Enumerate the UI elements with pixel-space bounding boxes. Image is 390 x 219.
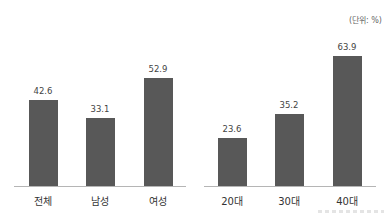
bar-value: 42.6 bbox=[23, 86, 63, 96]
bar-30s bbox=[275, 114, 304, 186]
unit-label: (단위: %) bbox=[349, 14, 382, 25]
bar-value: 63.9 bbox=[327, 42, 367, 52]
bar-40s bbox=[333, 56, 362, 186]
right-x-axis bbox=[204, 186, 376, 187]
left-x-axis bbox=[14, 186, 186, 187]
bar-category: 전체 bbox=[21, 193, 65, 208]
bar-value: 35.2 bbox=[269, 100, 309, 110]
bar-value: 52.9 bbox=[138, 64, 178, 74]
bar-category: 20대 bbox=[210, 193, 254, 208]
bar-male bbox=[86, 118, 115, 186]
bar-20s bbox=[218, 138, 247, 186]
bar-category: 여성 bbox=[136, 193, 180, 208]
bar-female bbox=[144, 78, 173, 186]
bar-category: 40대 bbox=[325, 193, 369, 208]
bar-category: 남성 bbox=[78, 193, 122, 208]
bar-total bbox=[29, 100, 58, 186]
bar-category: 30대 bbox=[267, 193, 311, 208]
faint-source-note bbox=[318, 210, 384, 213]
bar-value: 23.6 bbox=[212, 124, 252, 134]
bar-value: 33.1 bbox=[80, 104, 120, 114]
